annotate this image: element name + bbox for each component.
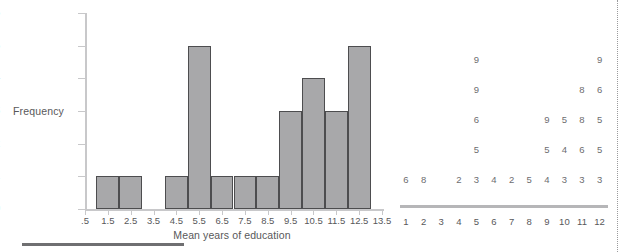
histogram-x-tick-label: 4.5 bbox=[170, 216, 183, 226]
bottom-rule bbox=[22, 243, 184, 246]
histogram-y-tick bbox=[78, 111, 85, 112]
dotplot-x-label: 1 bbox=[403, 217, 408, 227]
histogram-x-tick-label: 2.5 bbox=[124, 216, 137, 226]
dotplot-value: 3 bbox=[474, 175, 479, 185]
histogram-y-tick bbox=[78, 209, 85, 210]
histogram-y-tick bbox=[78, 78, 85, 79]
dotplot-value: 4 bbox=[491, 175, 496, 185]
dotplot-value: 6 bbox=[579, 145, 584, 155]
histogram-x-tick-label: .5 bbox=[81, 216, 89, 226]
dotplot-value: 2 bbox=[456, 175, 461, 185]
histogram-bar bbox=[302, 78, 325, 209]
dotplot-value: 2 bbox=[509, 175, 514, 185]
histogram-bar bbox=[188, 46, 211, 209]
dotplot-value: 8 bbox=[579, 85, 584, 95]
histogram-y-tick bbox=[78, 176, 85, 177]
dotplot-value: 4 bbox=[544, 175, 549, 185]
dotplot-value: 6 bbox=[403, 175, 408, 185]
dotplot-chart: 99986695855546568234254333 1234567891011… bbox=[392, 0, 625, 252]
dotplot-value: 8 bbox=[579, 115, 584, 125]
histogram-bar bbox=[165, 176, 188, 209]
histogram-chart: Frequency 0123456 .51.52.53.54.55.56.57.… bbox=[0, 0, 400, 252]
histogram-x-axis-label: Mean years of education bbox=[173, 229, 290, 241]
histogram-bar bbox=[325, 111, 348, 209]
dotplot-value: 9 bbox=[474, 85, 479, 95]
histogram-x-tick-label: 12.5 bbox=[350, 216, 369, 226]
histogram-x-tick-label: 1.5 bbox=[101, 216, 114, 226]
histogram-bar bbox=[256, 176, 279, 209]
histogram-x-tick-label: 13.5 bbox=[373, 216, 392, 226]
dotplot-value: 6 bbox=[474, 115, 479, 125]
histogram-bar bbox=[119, 176, 142, 209]
histogram-y-tick bbox=[78, 144, 85, 145]
histogram-x-tick-label: 3.5 bbox=[147, 216, 160, 226]
dotplot-axis-line bbox=[400, 205, 608, 208]
figure-root: Frequency 0123456 .51.52.53.54.55.56.57.… bbox=[0, 0, 625, 252]
dotplot-value: 5 bbox=[544, 145, 549, 155]
dotplot-x-label: 6 bbox=[491, 217, 496, 227]
dotplot-x-label: 5 bbox=[474, 217, 479, 227]
histogram-x-tick-label: 9.5 bbox=[284, 216, 297, 226]
histogram-bar bbox=[234, 176, 257, 209]
page-divider bbox=[617, 0, 618, 252]
histogram-y-tick bbox=[78, 13, 85, 14]
dotplot-x-label: 10 bbox=[559, 217, 570, 227]
dotplot-value: 3 bbox=[562, 175, 567, 185]
dotplot-value: 3 bbox=[597, 175, 602, 185]
histogram-y-axis-line bbox=[85, 13, 87, 211]
dotplot-value: 9 bbox=[597, 55, 602, 65]
histogram-x-tick-label: 8.5 bbox=[261, 216, 274, 226]
dotplot-value: 8 bbox=[421, 175, 426, 185]
histogram-x-tick-label: 6.5 bbox=[215, 216, 228, 226]
dotplot-value: 5 bbox=[562, 115, 567, 125]
dotplot-value: 9 bbox=[474, 55, 479, 65]
dotplot-value: 5 bbox=[597, 115, 602, 125]
dotplot-value: 4 bbox=[562, 145, 567, 155]
dotplot-value: 3 bbox=[579, 175, 584, 185]
dotplot-x-label: 4 bbox=[456, 217, 461, 227]
histogram-x-tick-label: 10.5 bbox=[304, 216, 323, 226]
histogram-y-tick bbox=[78, 46, 85, 47]
histogram-y-axis-label: Frequency bbox=[13, 105, 64, 117]
dotplot-value: 5 bbox=[474, 145, 479, 155]
dotplot-x-label: 8 bbox=[527, 217, 532, 227]
histogram-x-tick-label: 5.5 bbox=[193, 216, 206, 226]
dotplot-x-label: 3 bbox=[439, 217, 444, 227]
histogram-bar bbox=[279, 111, 302, 209]
dotplot-x-label: 12 bbox=[594, 217, 605, 227]
dotplot-value: 9 bbox=[544, 115, 549, 125]
dotplot-x-label: 9 bbox=[544, 217, 549, 227]
dotplot-value: 5 bbox=[597, 145, 602, 155]
dotplot-x-label: 7 bbox=[509, 217, 514, 227]
histogram-bar bbox=[96, 176, 119, 209]
dotplot-x-label: 2 bbox=[421, 217, 426, 227]
histogram-x-tick-label: 7.5 bbox=[238, 216, 251, 226]
histogram-bar bbox=[348, 46, 371, 209]
histogram-bar bbox=[211, 176, 234, 209]
dotplot-value: 5 bbox=[527, 175, 532, 185]
histogram-x-tick-label: 11.5 bbox=[327, 216, 345, 226]
dotplot-value: 6 bbox=[597, 85, 602, 95]
dotplot-x-label: 11 bbox=[577, 217, 587, 227]
